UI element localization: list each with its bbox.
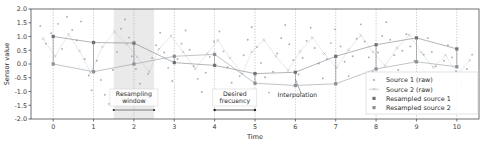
resampled-point-1 (374, 43, 377, 46)
raw-point-source1 (377, 52, 379, 54)
xtick-label: 8 (374, 123, 378, 131)
raw-point-source1 (348, 75, 350, 77)
raw-point-source2 (275, 55, 278, 58)
legend-label-2: Resampled source 1 (386, 95, 451, 103)
legend-marker-resampled-1 (372, 97, 375, 100)
legend-marker-source1 (373, 79, 375, 81)
raw-point-source1 (124, 19, 126, 21)
legend-label-1: Source 2 (raw) (386, 86, 433, 94)
raw-point-source1 (280, 37, 282, 39)
xtick-label: 2 (132, 123, 136, 131)
raw-point-source2 (194, 68, 197, 71)
resampled-point-2 (52, 62, 55, 65)
raw-point-source1 (163, 52, 165, 54)
raw-point-source1 (401, 50, 403, 52)
raw-point-source1 (389, 39, 391, 41)
raw-point-source2 (359, 34, 362, 37)
resampling-window-span-end-right (153, 109, 155, 111)
xtick-label: 9 (414, 123, 418, 131)
raw-point-source1 (272, 71, 274, 73)
raw-point-source2 (384, 64, 387, 67)
resampled-point-1 (334, 55, 337, 58)
raw-point-source1 (268, 92, 270, 94)
ytick-label: 0.5 (17, 47, 27, 55)
raw-point-source1 (159, 32, 161, 34)
xtick-label: 7 (334, 123, 338, 131)
raw-point-source2 (396, 47, 399, 50)
raw-point-source2 (420, 51, 423, 54)
raw-point-source1 (128, 37, 130, 39)
raw-point-source1 (108, 103, 110, 105)
raw-point-source2 (372, 51, 375, 54)
raw-point-source1 (393, 54, 395, 56)
raw-point-source1 (368, 56, 370, 58)
raw-point-source1 (231, 82, 233, 84)
raw-point-source2 (432, 66, 435, 69)
raw-point-source1 (71, 29, 73, 31)
raw-point-source2 (42, 37, 45, 40)
raw-point-source1 (189, 49, 191, 51)
raw-point-source1 (100, 79, 102, 81)
interpolation-label: Interpolation (278, 91, 318, 99)
ytick-label: -0.5 (15, 74, 27, 82)
raw-point-source1 (171, 80, 173, 82)
raw-point-source2 (182, 51, 185, 54)
resampled-point-2 (253, 82, 256, 85)
desired-frecuency-span-end-left (213, 109, 215, 111)
raw-point-source1 (39, 25, 41, 27)
resampled-point-2 (132, 62, 135, 65)
raw-point-source1 (243, 54, 245, 56)
figure-canvas: 2.01.51.00.50.0-0.5-1.0-1.5-2.0012345678… (0, 0, 486, 146)
raw-point-source2 (299, 50, 302, 53)
resampled-point-1 (92, 41, 95, 44)
raw-point-source2 (170, 35, 173, 38)
raw-point-source1 (330, 42, 332, 44)
raw-point-source2 (250, 51, 253, 54)
raw-point-source2 (444, 54, 447, 57)
raw-point-source1 (310, 27, 312, 29)
chart-svg: 2.01.51.00.50.0-0.5-1.0-1.5-2.0012345678… (0, 0, 486, 146)
resampled-point-2 (173, 55, 176, 58)
raw-point-source1 (88, 75, 90, 77)
resampled-point-1 (455, 47, 458, 50)
raw-point-source1 (352, 55, 354, 57)
raw-point-source1 (66, 16, 68, 18)
raw-point-source1 (116, 51, 118, 53)
raw-point-source1 (167, 67, 169, 69)
raw-point-source2 (89, 72, 92, 75)
raw-point-source1 (151, 57, 153, 59)
xtick-label: 0 (51, 123, 55, 131)
raw-point-source1 (131, 55, 133, 57)
ytick-label: 1.5 (17, 19, 27, 27)
raw-point-source1 (91, 89, 93, 91)
raw-point-source1 (298, 74, 300, 76)
raw-point-source1 (251, 26, 253, 28)
raw-point-source1 (120, 28, 122, 30)
resampled-point-2 (374, 67, 377, 70)
raw-point-source1 (50, 32, 52, 34)
raw-point-source1 (112, 69, 114, 71)
ytick-label: 2.0 (17, 5, 27, 13)
raw-point-source1 (431, 51, 433, 53)
raw-point-source1 (334, 28, 336, 30)
raw-point-source1 (260, 62, 262, 64)
raw-point-source1 (104, 94, 106, 96)
xtick-label: 3 (172, 123, 176, 131)
raw-point-source1 (302, 57, 304, 59)
raw-point-source1 (306, 40, 308, 42)
raw-point-source1 (427, 37, 429, 39)
resampled-point-2 (294, 84, 297, 87)
raw-point-source2 (323, 52, 326, 55)
ytick-label: -2.0 (15, 115, 27, 123)
resampling-window-label-line2: window (122, 97, 145, 104)
raw-point-source2 (229, 57, 232, 60)
raw-point-source1 (139, 83, 141, 85)
resampled-point-1 (132, 42, 135, 45)
ytick-label: -1.5 (15, 102, 27, 110)
xtick-label: 5 (253, 123, 257, 131)
ytick-label: 1.0 (17, 33, 27, 41)
raw-point-source2 (311, 36, 314, 39)
raw-line-source2 (43, 32, 470, 75)
raw-point-source1 (185, 30, 187, 32)
raw-point-source1 (201, 91, 203, 93)
